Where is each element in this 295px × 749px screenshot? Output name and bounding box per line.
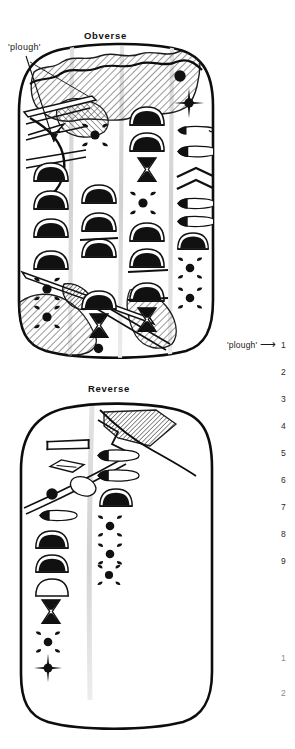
plough-annotation-side-text: 'plough'	[227, 340, 257, 350]
reverse-ruling-line	[89, 406, 92, 700]
line-number: 5	[281, 448, 293, 458]
line-number: 7	[281, 502, 293, 512]
line-number: 9	[281, 556, 293, 566]
obverse-label: Obverse	[84, 30, 127, 41]
line-number: 4	[281, 421, 293, 431]
line-number-secondary: 1	[281, 653, 293, 663]
line-number: 2	[281, 367, 293, 377]
line-number: 6	[281, 475, 293, 485]
reverse-panel	[21, 404, 212, 729]
line-number: 8	[281, 529, 293, 539]
tablet-drawing	[0, 0, 295, 749]
line-number: 3	[281, 394, 293, 404]
line-number-secondary: 2	[281, 688, 293, 698]
arrow-right-icon: ⟶	[260, 338, 276, 350]
plough-annotation-top: 'plough'	[8, 42, 41, 52]
plough-annotation-side: 'plough' ⟶	[227, 338, 276, 351]
reverse-label: Reverse	[88, 383, 130, 394]
line-number: 1	[281, 340, 293, 350]
obverse-panel	[18, 44, 217, 358]
